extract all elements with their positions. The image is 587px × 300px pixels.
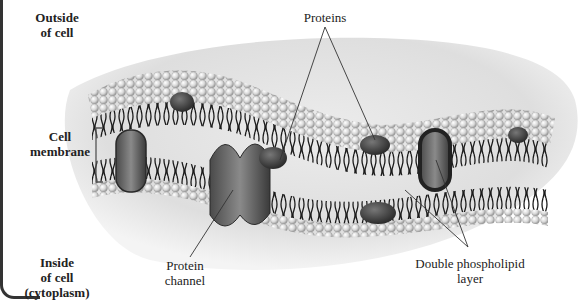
label-protein-channel: Protein channel bbox=[150, 258, 220, 288]
label-line: Inside bbox=[12, 255, 102, 270]
label-line: (cytoplasm) bbox=[12, 285, 102, 300]
label-line: of cell bbox=[22, 25, 92, 40]
label-line: Protein bbox=[150, 258, 220, 273]
transmembrane-protein-right bbox=[420, 130, 450, 190]
label-line: of cell bbox=[12, 270, 102, 285]
label-line: membrane bbox=[25, 144, 95, 159]
label-proteins: Proteins bbox=[290, 10, 360, 25]
surface-protein-top-left bbox=[170, 92, 194, 112]
label-line: channel bbox=[150, 273, 220, 288]
transmembrane-protein-left bbox=[116, 130, 146, 192]
label-line: layer bbox=[405, 271, 535, 286]
surface-protein-right bbox=[360, 135, 390, 155]
surface-protein-far-right bbox=[508, 127, 528, 143]
label-cell-membrane: Cell membrane bbox=[25, 129, 95, 159]
label-line: Outside bbox=[22, 10, 92, 25]
label-double-phospholipid-layer: Double phospholipid layer bbox=[405, 256, 535, 286]
label-inside-of-cell: Inside of cell (cytoplasm) bbox=[12, 255, 102, 300]
label-line: Double phospholipid bbox=[405, 256, 535, 271]
label-line: Cell bbox=[25, 129, 95, 144]
label-outside-of-cell: Outside of cell bbox=[22, 10, 92, 40]
surface-protein-bottom bbox=[360, 202, 396, 224]
surface-protein-middle bbox=[259, 147, 287, 169]
